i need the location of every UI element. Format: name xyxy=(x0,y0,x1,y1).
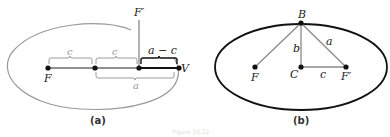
label-brace-c2: c xyxy=(112,46,118,57)
label-segment-a: a xyxy=(326,35,333,48)
panel-a: F F′ V c c a − c a (a) xyxy=(7,6,190,126)
label-B: B xyxy=(297,8,306,21)
panel-b: B F C F′ b a c (b) xyxy=(215,8,387,126)
point-C xyxy=(298,64,303,69)
label-brace-a-minus-c: a − c xyxy=(148,44,177,57)
point-center xyxy=(92,65,97,70)
label-segment-b: b xyxy=(293,42,300,55)
label-segment-c: c xyxy=(320,68,326,81)
point-B xyxy=(298,20,303,25)
brace-c2 xyxy=(96,56,137,64)
caption-a: (a) xyxy=(90,115,106,126)
label-V: V xyxy=(181,62,190,75)
label-C: C xyxy=(290,68,299,81)
point-F-prime xyxy=(343,64,348,69)
label-brace-c1: c xyxy=(67,46,73,57)
label-F-prime: F′ xyxy=(340,70,352,83)
label-F-prime: F′ xyxy=(133,6,145,19)
label-F: F xyxy=(250,71,259,84)
ellipse-figure: F F′ V c c a − c a (a) B F C F′ b a c (b… xyxy=(0,0,390,137)
figure-caption: Figure 10.12 xyxy=(172,128,210,136)
brace-a-minus-c xyxy=(141,56,177,64)
point-F-prime xyxy=(136,65,141,70)
brace-a xyxy=(96,72,174,80)
point-F xyxy=(252,64,257,69)
segment-B-F-prime xyxy=(301,23,346,67)
brace-c1 xyxy=(49,56,92,64)
point-F xyxy=(45,65,50,70)
label-brace-a: a xyxy=(133,80,139,91)
caption-b: (b) xyxy=(293,115,309,126)
label-F: F xyxy=(43,72,52,85)
